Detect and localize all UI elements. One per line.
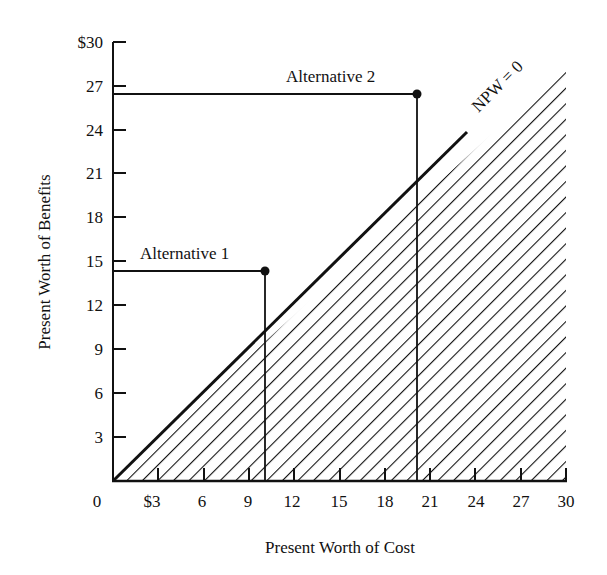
alternative-2-label: Alternative 2 — [286, 67, 375, 86]
y-axis-title: Present Worth of Benefits — [35, 174, 54, 349]
svg-text:3: 3 — [95, 428, 104, 447]
svg-text:30: 30 — [558, 492, 575, 511]
svg-text:12: 12 — [284, 492, 301, 511]
svg-text:$3: $3 — [144, 492, 161, 511]
svg-text:9: 9 — [244, 492, 253, 511]
hatched-region — [113, 66, 566, 481]
svg-text:0: 0 — [93, 492, 102, 511]
svg-text:27: 27 — [513, 492, 531, 511]
x-tick-labels: 0 $3 6 9 12 15 18 21 24 27 30 — [93, 492, 575, 511]
alternative-1-label: Alternative 1 — [140, 244, 229, 263]
svg-text:21: 21 — [86, 164, 103, 183]
y-axis — [113, 42, 126, 482]
svg-text:$30: $30 — [78, 33, 104, 52]
svg-text:18: 18 — [86, 208, 103, 227]
x-axis-title: Present Worth of Cost — [265, 538, 415, 557]
svg-text:15: 15 — [86, 252, 103, 271]
svg-text:6: 6 — [95, 384, 104, 403]
svg-text:18: 18 — [377, 492, 394, 511]
y-tick-labels: $30 27 24 21 18 15 12 9 6 3 — [78, 33, 104, 447]
svg-text:6: 6 — [198, 492, 207, 511]
svg-text:15: 15 — [331, 492, 348, 511]
svg-text:24: 24 — [86, 121, 104, 140]
svg-text:12: 12 — [86, 296, 103, 315]
svg-text:27: 27 — [86, 77, 104, 96]
npw-chart: Alternative 1 Alternative 2 NPW = 0 $30 … — [0, 0, 607, 575]
svg-text:24: 24 — [468, 492, 486, 511]
svg-text:21: 21 — [422, 492, 439, 511]
svg-text:9: 9 — [95, 340, 104, 359]
